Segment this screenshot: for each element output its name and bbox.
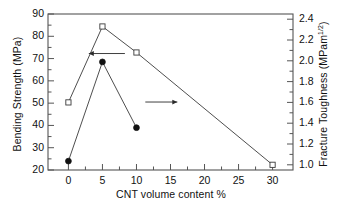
x-tick-label: 25	[223, 174, 255, 186]
y-tick-label-left: 40	[6, 118, 44, 130]
x-tick-label: 10	[120, 174, 152, 186]
x-axis-label: CNT volume content %	[48, 188, 294, 200]
y-tick-label-right: 2.2	[299, 33, 329, 45]
plot-frame	[48, 14, 293, 170]
data-point-open-square	[270, 162, 275, 167]
y-tick-label-left: 90	[6, 7, 44, 19]
y-tick-label-right: 2.0	[299, 54, 329, 66]
x-tick-label: 20	[189, 174, 221, 186]
data-point-open-square	[134, 50, 139, 55]
y-tick-label-right: 1.6	[299, 95, 329, 107]
data-point-filled-circle	[134, 125, 140, 131]
x-tick-label: 5	[86, 174, 118, 186]
y-tick-label-right: 1.2	[299, 137, 329, 149]
y-tick-label-right: 1.8	[299, 75, 329, 87]
y-tick-label-left: 60	[6, 74, 44, 86]
y-tick-label-left: 30	[6, 141, 44, 153]
y-tick-label-right: 1.4	[299, 116, 329, 128]
x-tick-label: 30	[257, 174, 289, 186]
data-point-open-square	[100, 24, 105, 29]
y-tick-label-left: 80	[6, 29, 44, 41]
data-point-filled-circle	[66, 158, 72, 164]
data-point-filled-circle	[100, 59, 106, 65]
y-tick-label-right: 2.4	[299, 12, 329, 24]
y-tick-label-left: 50	[6, 96, 44, 108]
data-point-open-square	[66, 100, 71, 105]
y-tick-label-left: 70	[6, 52, 44, 64]
x-tick-label: 0	[52, 174, 84, 186]
y-tick-label-right: 1.0	[299, 158, 329, 170]
y-tick-label-left: 20	[6, 163, 44, 175]
x-tick-label: 15	[155, 174, 187, 186]
